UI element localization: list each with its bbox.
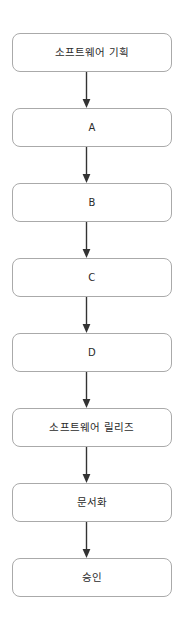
flow-arrow (80, 522, 93, 558)
flow-node-7[interactable]: 문서화 (12, 483, 172, 522)
flowchart-diagram: 소프트웨어 기획ABCD소프트웨어 릴리즈문서화승인 (0, 0, 184, 633)
flow-node-label: 문서화 (77, 496, 108, 509)
flow-node-label: 소프트웨어 기획 (55, 46, 130, 59)
flow-node-6[interactable]: 소프트웨어 릴리즈 (12, 408, 172, 447)
flow-node-1[interactable]: 소프트웨어 기획 (12, 33, 172, 72)
flow-node-label: 승인 (82, 571, 102, 584)
flow-node-label: B (88, 197, 95, 209)
flow-node-label: 소프트웨어 릴리즈 (49, 421, 134, 434)
flow-node-5[interactable]: D (12, 333, 172, 372)
flow-node-label: C (88, 272, 95, 284)
flow-node-label: D (88, 347, 96, 359)
flow-arrow (80, 72, 93, 108)
flow-node-4[interactable]: C (12, 258, 172, 297)
flow-node-2[interactable]: A (12, 108, 172, 147)
flow-node-8[interactable]: 승인 (12, 558, 172, 597)
flow-arrow (80, 222, 93, 258)
flow-arrow (80, 447, 93, 483)
flow-arrow (80, 372, 93, 408)
flow-node-label: A (88, 122, 95, 134)
flow-node-3[interactable]: B (12, 183, 172, 222)
flow-arrow (80, 147, 93, 183)
flow-arrow (80, 297, 93, 333)
